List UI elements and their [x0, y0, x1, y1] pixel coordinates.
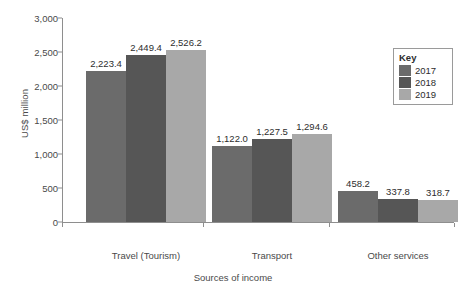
x-axis-line: [62, 222, 454, 223]
x-axis-tick-mark: [454, 223, 455, 227]
legend-swatch-icon: [399, 89, 411, 100]
bar-value-label: 1,122.0: [216, 133, 248, 144]
y-axis-tick-label: 500: [42, 183, 58, 194]
x-axis-category-label: Other services: [367, 250, 428, 261]
y-axis-tick-mark: [58, 188, 62, 189]
bar: [212, 146, 252, 222]
legend-item: 2019: [399, 89, 448, 100]
bar-value-label: 318.7: [426, 187, 450, 198]
bar: [86, 71, 126, 222]
legend-item: 2018: [399, 77, 448, 88]
legend-swatch-icon: [399, 77, 411, 88]
x-axis-category-label: Transport: [252, 250, 292, 261]
legend-swatch-icon: [399, 65, 411, 76]
bar-value-label: 2,449.4: [130, 42, 162, 53]
bar: [338, 191, 378, 222]
bar: [166, 50, 206, 222]
bar: [292, 134, 332, 222]
y-axis-tick-mark: [58, 120, 62, 121]
y-axis-tick-mark: [58, 86, 62, 87]
legend-item-label: 2018: [415, 77, 436, 88]
bar-value-label: 458.2: [346, 178, 370, 189]
bar-value-label: 2,526.2: [170, 37, 202, 48]
bar: [126, 55, 166, 222]
y-axis-tick-label: 2,000: [34, 81, 58, 92]
y-axis-tick-mark: [58, 18, 62, 19]
y-axis-tick-label: 1,000: [34, 149, 58, 160]
bar-value-label: 1,227.5: [256, 126, 288, 137]
bar: [418, 200, 458, 222]
legend-item: 2017: [399, 65, 448, 76]
y-axis-tick-label: 2,500: [34, 47, 58, 58]
bar: [252, 139, 292, 222]
bar-value-label: 1,294.6: [296, 121, 328, 132]
legend: Key 201720182019: [393, 48, 453, 105]
y-axis-title: US$ million: [19, 69, 30, 159]
y-axis-tick-mark: [58, 52, 62, 53]
bar: [378, 199, 418, 222]
x-axis-tick-mark: [62, 223, 63, 227]
x-axis-tick-mark: [203, 223, 204, 227]
x-axis-tick-mark: [329, 223, 330, 227]
legend-rows: 201720182019: [399, 65, 448, 100]
legend-item-label: 2017: [415, 65, 436, 76]
x-axis-title: Sources of income: [0, 272, 466, 283]
y-axis-tick-label: 3,000: [34, 13, 58, 24]
bar-value-label: 2,223.4: [90, 58, 122, 69]
legend-item-label: 2019: [415, 89, 436, 100]
bar-chart: US$ million 05001,0001,5002,0002,5003,00…: [0, 0, 466, 295]
bar-value-label: 337.8: [386, 186, 410, 197]
x-axis-category-label: Travel (Tourism): [112, 250, 180, 261]
legend-title: Key: [399, 52, 448, 63]
y-axis-tick-label: 1,500: [34, 115, 58, 126]
y-axis-tick-mark: [58, 154, 62, 155]
